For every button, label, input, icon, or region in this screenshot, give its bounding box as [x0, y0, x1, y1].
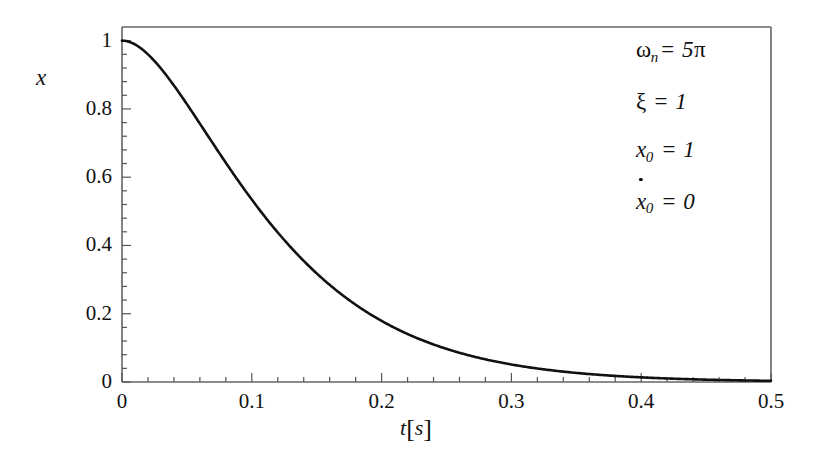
x0-value: = 1	[661, 137, 695, 162]
x-tick-label: 0	[92, 391, 152, 412]
y-tick-label: 1	[56, 30, 112, 51]
y-tick-label: 0.4	[56, 234, 112, 255]
x0-subscript: 0	[646, 149, 654, 165]
parameter-annotation-block: ωn= 5π ξ = 1 x0 = 1 x0 = 0	[636, 38, 766, 241]
figure-canvas: x t[s] 00.20.40.60.81 00.10.20.30.40.5 ω…	[0, 0, 816, 460]
x-tick-label: 0.5	[741, 391, 801, 412]
x-tick-label: 0.2	[352, 391, 412, 412]
omega-symbol: ω	[636, 37, 652, 62]
x-tick-label: 0.1	[222, 391, 282, 412]
y-tick-label: 0.6	[56, 166, 112, 187]
annotation-xdot0: x0 = 0	[636, 190, 766, 217]
xdot0-variable: x	[636, 189, 647, 214]
y-axis-title: x	[36, 66, 46, 89]
y-tick-label: 0.2	[56, 303, 112, 324]
xdot0-variable-with-dot: x	[636, 190, 647, 213]
xdot0-value: = 0	[661, 189, 695, 214]
zeta-symbol: ξ	[636, 89, 647, 114]
omega-subscript: n	[651, 49, 659, 65]
x-tick-label: 0.4	[611, 391, 671, 412]
x-axis-title: t[s]	[400, 414, 432, 440]
x-axis-unit-close-bracket: ]	[423, 414, 432, 443]
y-tick-label: 0.8	[56, 98, 112, 119]
annotation-x0: x0 = 1	[636, 138, 766, 165]
y-tick-label: 0	[56, 371, 112, 392]
time-derivative-dot-icon	[639, 178, 643, 182]
x-axis-unit-open-bracket: [	[406, 414, 415, 443]
zeta-value: = 1	[653, 89, 687, 114]
annotation-omega-n: ωn= 5π	[636, 38, 766, 65]
omega-value: = 5	[660, 37, 694, 62]
annotation-zeta: ξ = 1	[636, 90, 766, 113]
x-tick-label: 0.3	[481, 391, 541, 412]
pi-symbol: π	[694, 37, 706, 62]
